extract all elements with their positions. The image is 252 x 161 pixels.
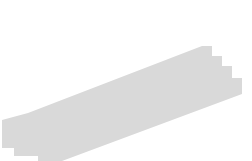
geometry-diagram: [0, 0, 252, 161]
shaded-band-fill: [2, 46, 242, 161]
figure-canvas: [0, 0, 252, 161]
